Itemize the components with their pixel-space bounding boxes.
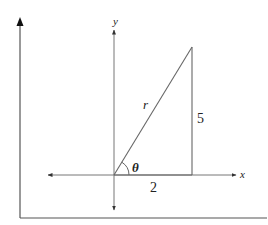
triangle-hypotenuse [114,47,192,175]
outer-frame [17,17,268,218]
right-triangle [114,47,192,175]
diagram-canvas: y x r 5 θ 2 [0,0,267,225]
angle-arc [122,162,129,175]
y-axis-label: y [112,15,118,27]
angle-label: θ [132,160,139,175]
outer-frame-arrowhead-icon [17,17,24,26]
adjacent-leg-label: 2 [150,180,157,195]
coordinate-axes: y x [48,15,245,210]
hypotenuse-label: r [143,97,149,112]
opposite-leg-label: 5 [197,111,204,126]
x-axis-label: x [239,168,245,180]
